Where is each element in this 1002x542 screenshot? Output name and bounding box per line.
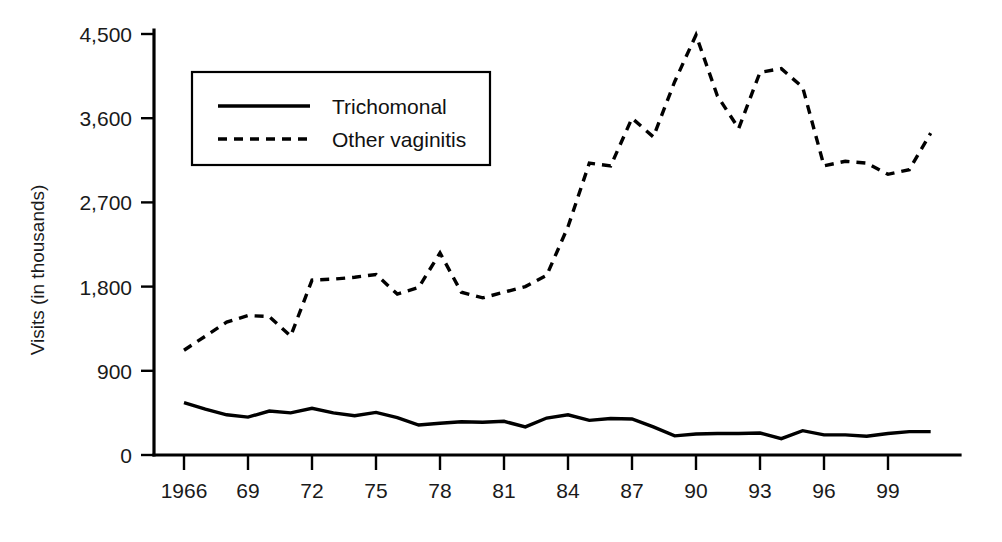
x-tick-label: 72 [300, 479, 323, 502]
chart-legend: Trichomonal Other vaginitis [192, 72, 490, 165]
x-tick-label: 96 [812, 479, 835, 502]
y-tick-label: 0 [120, 444, 132, 467]
x-tick-label: 69 [236, 479, 259, 502]
legend-label-trichomonal: Trichomonal [332, 95, 447, 118]
x-tick-label: 84 [556, 479, 580, 502]
x-tick-label: 93 [748, 479, 771, 502]
x-tick-label: 75 [364, 479, 387, 502]
x-axis-ticks: 19666972757881848790939699 [161, 456, 900, 502]
x-tick-label: 1966 [161, 479, 208, 502]
y-tick-label: 1,800 [79, 276, 132, 299]
x-tick-label: 99 [876, 479, 899, 502]
legend-label-other-vaginitis: Other vaginitis [332, 128, 466, 151]
y-tick-label: 4,500 [79, 23, 132, 46]
x-tick-label: 90 [684, 479, 707, 502]
series-line-trichomonal [184, 403, 931, 439]
chart-figure: Visits (in thousands) 09001,8002,7003,60… [0, 0, 1002, 542]
y-tick-label: 900 [97, 360, 132, 383]
y-axis-ticks: 09001,8002,7003,6004,500 [79, 23, 154, 467]
y-axis-label: Visits (in thousands) [27, 185, 48, 356]
y-axis-label-text: Visits (in thousands) [27, 185, 48, 356]
x-tick-label: 87 [620, 479, 643, 502]
legend-border [192, 72, 490, 165]
y-tick-label: 2,700 [79, 191, 132, 214]
x-tick-label: 81 [492, 479, 515, 502]
x-tick-label: 78 [428, 479, 451, 502]
line-chart: Visits (in thousands) 09001,8002,7003,60… [0, 0, 1002, 542]
y-tick-label: 3,600 [79, 107, 132, 130]
